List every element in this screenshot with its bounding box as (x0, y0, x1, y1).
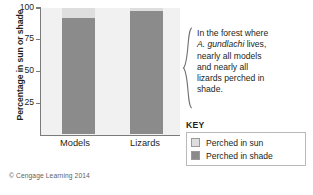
annotation-line-3: nearly all models (197, 51, 261, 61)
copyright-notice: © Cengage Learning 2014 (9, 172, 90, 179)
y-tick-mark (36, 103, 41, 104)
plot-area: 255075100 (40, 8, 180, 136)
legend-item: Perched in shade (191, 149, 301, 162)
legend-swatch-icon (191, 151, 200, 160)
bar-group (44, 8, 180, 134)
y-tick-label: 100 (20, 2, 34, 12)
y-tick-mark (36, 39, 41, 40)
y-tick-label: 25 (24, 97, 34, 107)
chart-legend: KEY Perched in sunPerched in shade (186, 120, 306, 166)
annotation-line-1: In the forest where (197, 28, 268, 38)
annotation-line-6: shade. (197, 84, 223, 94)
legend-item-label: Perched in shade (206, 151, 273, 161)
legend-item-label: Perched in sun (206, 138, 263, 148)
annotation-line-2-rest: lives, (244, 39, 266, 49)
x-axis-label-lizards: Lizards (119, 138, 171, 148)
plot-wrap: 255075100 (37, 8, 180, 136)
legend-swatch-icon (191, 138, 200, 147)
y-tick-label: 75 (24, 33, 34, 43)
figure-bar-chart-perch-site: Percentage in sun or shade 255075100 Mod… (0, 0, 313, 195)
y-tick-mark (36, 71, 41, 72)
bar-lizards[interactable] (130, 8, 163, 134)
annotation-line-4: and nearly all (197, 62, 248, 72)
bar-models[interactable] (62, 8, 95, 134)
x-axis-labels: ModelsLizards (40, 138, 180, 148)
annotation-species-name: A. gundlachi (197, 39, 244, 49)
legend-item: Perched in sun (191, 136, 301, 149)
bar-segment-perched-in-shade (130, 11, 163, 134)
legend-box: Perched in sunPerched in shade (186, 132, 306, 166)
y-tick-mark (36, 7, 41, 8)
legend-title: KEY (186, 120, 306, 130)
chart-panel: Percentage in sun or shade 255075100 Mod… (6, 8, 180, 144)
bar-segment-perched-in-sun (62, 8, 95, 18)
curly-brace-icon (182, 27, 194, 109)
annotation-callout: In the forest where A. gundlachi lives, … (182, 27, 310, 109)
annotation-text: In the forest where A. gundlachi lives, … (197, 28, 307, 96)
y-tick-label: 50 (24, 65, 34, 75)
bar-segment-perched-in-shade (62, 18, 95, 134)
annotation-line-5: lizards perched in (197, 73, 264, 83)
x-axis-label-models: Models (49, 138, 101, 148)
